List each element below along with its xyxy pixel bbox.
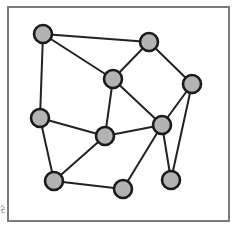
node-n2 [140, 33, 158, 51]
node-n10 [162, 171, 180, 189]
node-n7 [153, 116, 171, 134]
edge-n8-n9 [54, 181, 123, 189]
node-n9 [114, 180, 132, 198]
edge-n1-n3 [43, 34, 113, 79]
edge-n1-n5 [40, 34, 43, 118]
node-n4 [183, 75, 201, 93]
graph-diagram [0, 0, 236, 230]
cropped-glyph-artifact: 谷 [0, 205, 5, 215]
node-n8 [45, 172, 63, 190]
edge-n1-n2 [43, 34, 149, 42]
node-n3 [104, 70, 122, 88]
node-layer [31, 25, 201, 198]
node-n5 [31, 109, 49, 127]
diagram-canvas: 谷 [0, 0, 236, 230]
edge-layer [40, 34, 192, 189]
node-n1 [34, 25, 52, 43]
edge-n7-n9 [123, 125, 162, 189]
node-n6 [96, 127, 114, 145]
